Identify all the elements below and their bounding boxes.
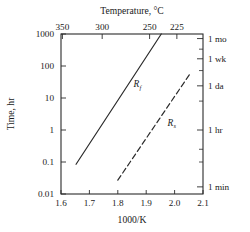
x-axis-ticks: 1.61.71.81.92.02.1 [55, 190, 209, 208]
series-line-Rs [118, 74, 190, 180]
y-tick-label: 0.1 [43, 157, 55, 167]
x-tick-label: 1.9 [140, 198, 152, 208]
arrhenius-time-temperature-chart: 1.61.71.81.92.02.1 10001001010.10.01 350… [0, 0, 250, 232]
series-sublabel-Rs: s [174, 122, 177, 129]
y-tick-label: 1 [49, 125, 54, 135]
y-tick-label: 1000 [36, 29, 55, 39]
x-tick-label: 2.1 [197, 198, 209, 208]
right-tick-label: 1 wk [208, 54, 227, 64]
top-axis-title: Temperature, °C [100, 5, 163, 16]
top-tick-label: 350 [56, 22, 70, 32]
top-axis-ticks: 350300250225 [56, 22, 185, 39]
series-label-Rs: R [167, 118, 174, 128]
x-axis-title: 1000/K [118, 214, 147, 225]
right-axis-ticks: 1 mo1 wk1 da1 hr1 min [197, 34, 230, 192]
top-tick-label: 300 [95, 22, 109, 32]
y-tick-label: 10 [45, 93, 55, 103]
x-tick-label: 1.8 [112, 198, 124, 208]
chart-figure: 1.61.71.81.92.02.1 10001001010.10.01 350… [0, 0, 250, 232]
top-tick-label: 225 [170, 22, 184, 32]
right-tick-label: 1 da [208, 81, 224, 91]
plot-frame [61, 34, 203, 194]
x-tick-label: 2.0 [169, 198, 181, 208]
right-tick-label: 1 min [208, 182, 230, 192]
x-tick-label: 1.6 [55, 198, 67, 208]
y-tick-label: 0.01 [38, 189, 54, 199]
series-sublabel-Rf: f [139, 84, 142, 91]
right-tick-label: 1 mo [208, 34, 227, 44]
y-axis-title: Time, hr [5, 97, 16, 131]
series-label-Rf: R [132, 79, 139, 89]
right-tick-label: 1 hr [208, 125, 223, 135]
top-tick-label: 250 [143, 22, 157, 32]
series-line-Rf [76, 34, 161, 164]
x-tick-label: 1.7 [84, 198, 96, 208]
y-tick-label: 100 [40, 61, 54, 71]
series-lines [76, 34, 190, 180]
